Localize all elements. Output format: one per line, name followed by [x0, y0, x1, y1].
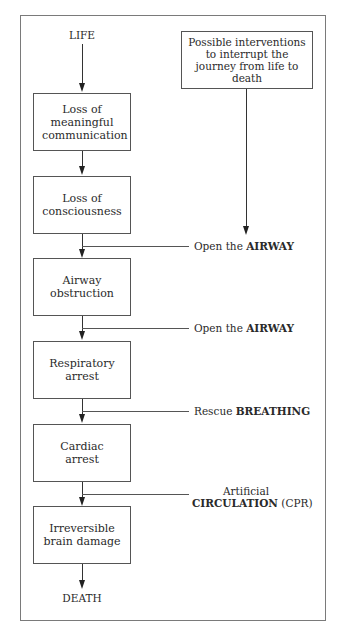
intervention-text: Open the	[194, 322, 243, 334]
stage-loss-of-consciousness: Loss of consciousness	[33, 176, 131, 234]
connector-line	[82, 246, 189, 247]
stage-text: Respiratory arrest	[47, 357, 117, 383]
life-label: LIFE	[33, 29, 131, 41]
arrow-line	[82, 151, 83, 167]
stage-respiratory-arrest: Respiratory arrest	[33, 341, 131, 399]
arrow-line	[82, 44, 83, 84]
arrow-line	[246, 89, 247, 227]
intervention-text: Open the	[194, 240, 243, 252]
arrow-down-icon	[79, 83, 85, 92]
interventions-box: Possible interventions to interrupt the …	[181, 31, 313, 89]
intervention-open-airway-1: Open the AIRWAY	[194, 240, 294, 252]
arrow-down-icon	[79, 166, 85, 175]
stage-cardiac-arrest: Cardiac arrest	[33, 424, 131, 482]
intervention-keyword: AIRWAY	[246, 240, 294, 252]
arrow-line	[82, 399, 83, 415]
stage-text: Cardiac arrest	[52, 440, 112, 466]
arrow-down-icon	[79, 580, 85, 589]
arrow-down-icon	[79, 331, 85, 340]
arrow-line	[82, 564, 83, 581]
intervention-open-airway-2: Open the AIRWAY	[194, 322, 294, 334]
intervention-keyword: BREATHING	[236, 405, 310, 417]
connector-line	[82, 494, 189, 495]
arrow-down-icon	[79, 414, 85, 423]
arrow-down-icon	[243, 226, 249, 235]
stage-text: Airway obstruction	[47, 274, 117, 300]
interventions-box-text: Possible interventions to interrupt the …	[186, 36, 308, 84]
connector-line	[82, 411, 189, 412]
intervention-rescue-breathing: Rescue BREATHING	[194, 405, 310, 417]
intervention-suffix: (CPR)	[281, 497, 312, 509]
stage-irreversible-brain-damage: Irreversible brain damage	[33, 506, 131, 564]
arrow-down-icon	[79, 249, 85, 258]
stage-text: Irreversible brain damage	[39, 522, 125, 548]
connector-line	[82, 328, 189, 329]
intervention-text: Artificial	[192, 485, 300, 497]
intervention-keyword: AIRWAY	[246, 322, 294, 334]
arrow-line	[82, 316, 83, 332]
arrow-down-icon	[79, 497, 85, 506]
stage-text: Loss of consciousness	[39, 192, 125, 218]
stage-text: Loss of meaningful communication	[42, 103, 122, 142]
intervention-text: Rescue	[194, 405, 232, 417]
intervention-keyword: CIRCULATION	[192, 497, 278, 509]
stage-airway-obstruction: Airway obstruction	[33, 258, 131, 316]
stage-loss-of-communication: Loss of meaningful communication	[33, 93, 131, 151]
death-label: DEATH	[33, 592, 131, 604]
intervention-artificial-circulation: Artificial CIRCULATION (CPR)	[192, 485, 300, 509]
